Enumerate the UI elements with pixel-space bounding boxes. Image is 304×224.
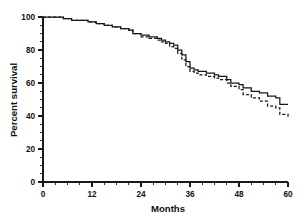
survival-chart-figure: 0 20 40 60 80 100 0 12 24 36 48 60 Month… [0,0,304,224]
x-tick-label-48: 48 [234,190,244,199]
y-tick-label-100: 100 [21,13,35,22]
x-tick-label-12: 12 [87,190,97,199]
y-tick-label-60: 60 [26,79,36,88]
y-axis-title: Percent survival [8,63,19,137]
x-axis-title: Months [151,203,185,214]
survival-curve-dashed [43,17,288,118]
y-tick-label-0: 0 [30,178,35,187]
survival-curve-solid [43,17,288,104]
x-tick-label-24: 24 [136,190,146,199]
survival-plot-svg: 0 20 40 60 80 100 0 12 24 36 48 60 Month… [0,0,304,224]
x-tick-label-36: 36 [185,190,195,199]
x-tick-label-60: 60 [283,190,293,199]
y-tick-label-20: 20 [26,145,36,154]
y-tick-label-80: 80 [26,46,36,55]
y-tick-label-40: 40 [26,112,36,121]
x-tick-label-0: 0 [41,190,46,199]
